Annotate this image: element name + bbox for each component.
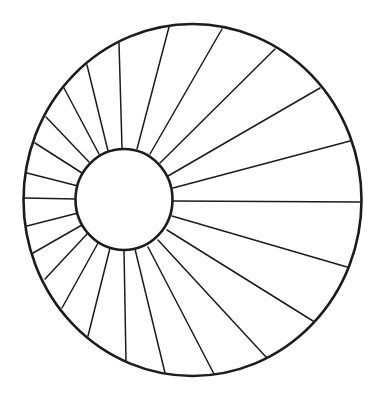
spoke-wheel-diagram [0, 0, 386, 406]
background [0, 0, 386, 406]
inner-circle [76, 149, 173, 250]
spoke-line [173, 201, 361, 202]
spoke-line [24, 198, 76, 199]
